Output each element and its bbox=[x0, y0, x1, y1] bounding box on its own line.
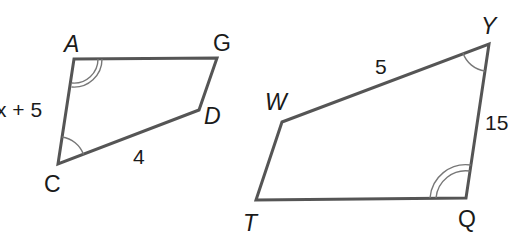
angle-c-arc bbox=[62, 137, 84, 155]
side-label-yq: 15 bbox=[485, 111, 508, 134]
side-label-cd: 4 bbox=[133, 145, 145, 168]
side-label-wy: 5 bbox=[375, 55, 387, 78]
vertex-label-a: A bbox=[62, 31, 79, 57]
vertex-label-y: Y bbox=[481, 13, 498, 39]
quadrilateral-twyq: W Y Q T 5 15 bbox=[243, 13, 508, 236]
similar-quadrilaterals-diagram: A G D C x + 5 4 W Y Q T 5 15 bbox=[0, 0, 528, 237]
quadrilateral-acdg: A G D C x + 5 4 bbox=[0, 30, 231, 197]
vertex-label-d: D bbox=[204, 103, 221, 129]
vertex-label-c: C bbox=[44, 171, 61, 197]
angle-y-arc bbox=[463, 53, 485, 71]
quadrilateral-twyq-outline bbox=[256, 44, 489, 200]
vertex-label-t: T bbox=[243, 210, 259, 236]
side-label-ac: x + 5 bbox=[0, 98, 42, 121]
vertex-label-q: Q bbox=[458, 206, 476, 232]
vertex-label-w: W bbox=[265, 89, 289, 115]
vertex-label-g: G bbox=[213, 30, 231, 56]
